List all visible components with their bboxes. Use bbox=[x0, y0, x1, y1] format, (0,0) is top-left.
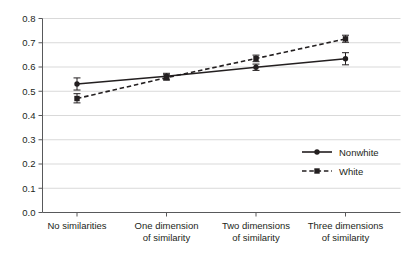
legend-label: Nonwhite bbox=[339, 147, 379, 158]
legend-label: White bbox=[339, 166, 363, 177]
series-white bbox=[74, 35, 350, 103]
y-tick-label: 0.2 bbox=[22, 158, 35, 169]
x-axis-ticks bbox=[77, 213, 346, 217]
data-point-marker bbox=[253, 65, 258, 70]
gridlines bbox=[43, 19, 401, 189]
y-axis-ticks bbox=[39, 19, 43, 213]
data-point-marker bbox=[253, 56, 258, 61]
data-point-marker bbox=[164, 75, 169, 80]
chart-legend: NonwhiteWhite bbox=[302, 147, 379, 177]
data-series-layer bbox=[74, 35, 350, 103]
line-chart: 0.00.10.20.30.40.50.60.70.8 No similarit… bbox=[0, 0, 410, 254]
series-line bbox=[77, 39, 346, 99]
x-category-label: Two dimensionsof similarity bbox=[222, 220, 290, 243]
data-point-marker bbox=[74, 81, 79, 86]
x-category-label: Three dimensionsof similarity bbox=[308, 220, 384, 243]
y-tick-label: 0.5 bbox=[22, 86, 35, 97]
y-tick-label: 0.6 bbox=[22, 61, 35, 72]
x-axis-category-labels: No similaritiesOne dimensionof similarit… bbox=[47, 220, 383, 243]
y-tick-label: 0.0 bbox=[22, 207, 35, 218]
y-tick-label: 0.3 bbox=[22, 134, 35, 145]
chart-figure: 0.00.10.20.30.40.50.60.70.8 No similarit… bbox=[0, 0, 410, 254]
series-nonwhite bbox=[74, 53, 350, 90]
y-tick-label: 0.7 bbox=[22, 37, 35, 48]
legend-item-white: White bbox=[302, 166, 363, 177]
legend-item-nonwhite: Nonwhite bbox=[302, 147, 379, 158]
legend-marker-circle bbox=[314, 149, 319, 154]
series-line bbox=[77, 59, 346, 84]
x-category-label: One dimensionof similarity bbox=[135, 220, 199, 243]
y-tick-label: 0.4 bbox=[22, 110, 35, 121]
y-axis-tick-labels: 0.00.10.20.30.40.50.60.70.8 bbox=[22, 13, 35, 218]
y-tick-label: 0.8 bbox=[22, 13, 35, 24]
x-category-label: No similarities bbox=[47, 220, 106, 231]
y-tick-label: 0.1 bbox=[22, 183, 35, 194]
data-point-marker bbox=[74, 96, 79, 101]
legend-marker-square bbox=[314, 168, 319, 173]
data-point-marker bbox=[343, 36, 348, 41]
data-point-marker bbox=[343, 56, 348, 61]
